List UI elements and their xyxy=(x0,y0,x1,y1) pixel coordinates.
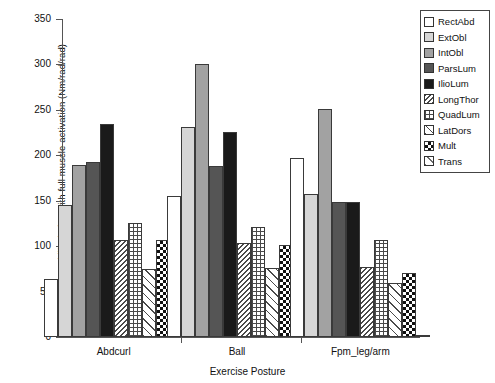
legend-label: QuadLum xyxy=(438,110,480,120)
bar-quadlum-ball xyxy=(251,227,265,337)
legend-swatch-longthor xyxy=(424,94,434,104)
legend-label: LatDors xyxy=(438,126,471,136)
legend-item-rectabd: RectAbd xyxy=(424,14,486,30)
bar-extobl-fpm-leg-arm xyxy=(304,194,318,337)
x-group-label-fpm-leg-arm: Fpm_leg/arm xyxy=(310,346,410,357)
y-tick xyxy=(56,337,62,338)
bar-intobl-ball xyxy=(195,64,209,337)
x-group-label-ball: Ball xyxy=(187,346,287,357)
legend-label: RectAbd xyxy=(438,17,474,27)
bar-rectabd-fpm-leg-arm xyxy=(290,158,304,337)
bar-longthor-abdcurl xyxy=(114,240,128,337)
bar-latdors-ball xyxy=(265,268,279,337)
legend-swatch-trans xyxy=(424,156,434,166)
legend-item-extobl: ExtObl xyxy=(424,30,486,46)
legend-item-longthor: LongThor xyxy=(424,92,486,108)
bar-trans-fpm-leg-arm xyxy=(416,335,430,337)
legend-label: ParsLum xyxy=(438,64,476,74)
bar-intobl-abdcurl xyxy=(72,165,86,337)
bar-extobl-abdcurl xyxy=(58,205,72,337)
bar-quadlum-abdcurl xyxy=(128,223,142,337)
bar-parslum-ball xyxy=(209,166,223,337)
bar-quadlum-fpm-leg-arm xyxy=(374,240,388,337)
y-tick-label: 150 xyxy=(34,195,51,206)
x-group-label-abdcurl: Abdcurl xyxy=(64,346,164,357)
bar-intobl-fpm-leg-arm xyxy=(318,109,332,337)
bar-extobl-ball xyxy=(181,127,195,337)
bar-rectabd-ball xyxy=(167,196,181,337)
legend-swatch-intobl xyxy=(424,48,434,58)
bar-longthor-fpm-leg-arm xyxy=(360,267,374,337)
legend-swatch-iliolum xyxy=(424,79,434,89)
legend-label: LongThor xyxy=(438,95,479,105)
legend: RectAbdExtOblIntOblParsLumIlioLumLongTho… xyxy=(420,10,490,173)
y-tick-label: 200 xyxy=(34,149,51,160)
y-tick-label: 350 xyxy=(34,13,51,24)
legend-item-quadlum: QuadLum xyxy=(424,107,486,123)
bar-longthor-ball xyxy=(237,243,251,337)
bar-iliolum-fpm-leg-arm xyxy=(346,202,360,337)
legend-swatch-quadlum xyxy=(424,110,434,120)
legend-item-latdors: LatDors xyxy=(424,123,486,139)
bar-rectabd-abdcurl xyxy=(44,279,58,337)
bar-mult-fpm-leg-arm xyxy=(402,273,416,338)
legend-swatch-parslum xyxy=(424,63,434,73)
legend-label: Trans xyxy=(438,157,462,167)
legend-swatch-rectabd xyxy=(424,17,434,27)
bars-layer xyxy=(62,19,420,337)
bar-parslum-fpm-leg-arm xyxy=(332,202,346,337)
x-tick xyxy=(301,337,302,343)
legend-item-iliolum: IlioLum xyxy=(424,76,486,92)
y-tick-label: 250 xyxy=(34,104,51,115)
legend-swatch-mult xyxy=(424,141,434,151)
legend-item-trans: Trans xyxy=(424,154,486,170)
legend-label: Mult xyxy=(438,141,456,151)
y-tick-label: 300 xyxy=(34,58,51,69)
legend-swatch-latdors xyxy=(424,125,434,135)
legend-item-intobl: IntObl xyxy=(424,45,486,61)
legend-swatch-extobl xyxy=(424,32,434,42)
bar-iliolum-ball xyxy=(223,132,237,337)
bar-iliolum-abdcurl xyxy=(100,124,114,337)
bar-parslum-abdcurl xyxy=(86,162,100,337)
legend-label: IntObl xyxy=(438,48,463,58)
x-tick xyxy=(181,337,182,343)
x-axis-line xyxy=(62,337,420,338)
legend-label: IlioLum xyxy=(438,79,469,89)
y-tick-label: 100 xyxy=(34,240,51,251)
bar-latdors-fpm-leg-arm xyxy=(388,283,402,338)
bar-chart: Increase in stability index with full mu… xyxy=(0,0,495,383)
legend-label: ExtObl xyxy=(438,33,467,43)
legend-item-mult: Mult xyxy=(424,138,486,154)
bar-latdors-abdcurl xyxy=(142,269,156,337)
x-axis-title: Exercise Posture xyxy=(0,366,495,377)
legend-item-parslum: ParsLum xyxy=(424,61,486,77)
